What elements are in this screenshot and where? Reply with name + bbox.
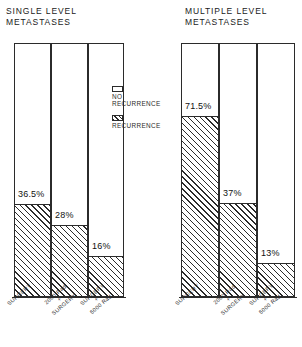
bar-fill-recurrence — [220, 203, 256, 296]
legend-swatch-hatched-icon — [112, 115, 123, 121]
bar-value-label: 13% — [261, 248, 280, 258]
bar-value-label: 36.5% — [18, 189, 45, 199]
legend-label: RECURRENCE — [112, 122, 174, 129]
bar-single-2000rad-surgery: 28% — [51, 43, 88, 297]
panel-title-single-level: SINGLE LEVEL METASTASES — [6, 6, 77, 28]
bar-fill-recurrence — [52, 225, 87, 296]
plot-area-single-level: 36.5% 28% 16% — [14, 43, 124, 297]
bar-single-surgery-5000rad: 16% — [88, 43, 124, 297]
bar-value-label: 28% — [55, 210, 74, 220]
plot-area-multiple-level: 71.5% 37% 13% — [181, 43, 295, 297]
legend: NO RECURRENCE RECURRENCE — [112, 86, 174, 136]
bar-fill-recurrence — [15, 204, 50, 296]
legend-label: NO RECURRENCE — [112, 93, 174, 108]
bar-multiple-surgery: 71.5% — [181, 43, 219, 297]
bar-value-label: 16% — [92, 241, 111, 251]
bar-value-label: 71.5% — [185, 101, 212, 111]
panel-title-multiple-level: MULTIPLE LEVEL METASTASES — [185, 6, 267, 28]
bar-fill-recurrence — [182, 116, 218, 296]
bar-multiple-2000rad-surgery: 37% — [219, 43, 257, 297]
bar-single-surgery: 36.5% — [14, 43, 51, 297]
figure: SINGLE LEVEL METASTASES MULTIPLE LEVEL M… — [0, 0, 302, 347]
bar-value-label: 37% — [223, 188, 242, 198]
legend-item-no-recurrence: NO RECURRENCE — [112, 86, 174, 108]
legend-swatch-empty-icon — [112, 86, 123, 92]
legend-item-recurrence: RECURRENCE — [112, 115, 174, 129]
bar-multiple-surgery-5000rad: 13% — [257, 43, 295, 297]
